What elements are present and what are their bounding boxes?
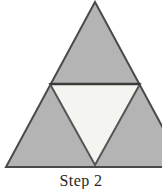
sierpinski-triangle-diagram: [0, 0, 162, 189]
caption-container: Step 2: [0, 172, 162, 189]
sierpinski-figure: Step 2: [0, 0, 162, 189]
figure-caption: Step 2: [0, 172, 162, 189]
